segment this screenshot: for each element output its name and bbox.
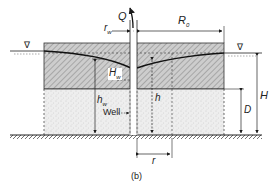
label-H: H [260, 90, 268, 101]
R0-sub: 0 [186, 22, 189, 28]
figure-caption: (b) [131, 172, 142, 181]
label-Hw: Hw [108, 68, 122, 80]
ground-hatch [10, 135, 262, 139]
label-h: h [155, 93, 161, 103]
aquifer-well-diagram [0, 0, 277, 187]
water-table-symbol-right: ∇ [237, 43, 243, 52]
label-Q: Q [118, 11, 127, 22]
water-table-symbol-left: ∇ [24, 41, 30, 50]
label-R0: R0 [178, 15, 189, 28]
label-r: r [152, 156, 155, 166]
Hw-sub: w [116, 74, 120, 80]
label-hw: hw [97, 95, 107, 107]
label-well: Well [103, 108, 120, 117]
well-casing [130, 20, 137, 135]
R0-main: R [178, 14, 186, 26]
rw-sub: w [107, 29, 111, 35]
label-rw: rw [104, 23, 112, 35]
label-D: D [244, 105, 251, 115]
